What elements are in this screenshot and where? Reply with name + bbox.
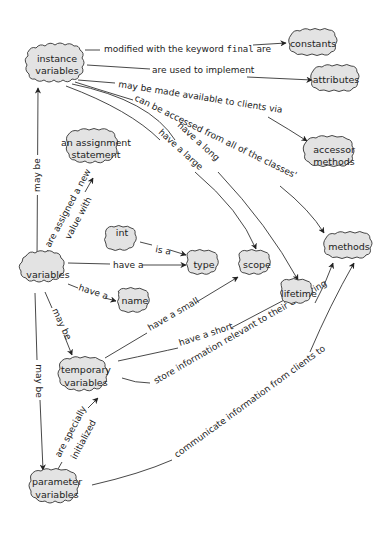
svg-text:variables: variables: [35, 65, 78, 76]
node-temporary-variables[interactable]: temporary variables: [58, 357, 111, 392]
edge-label-may-be-instance: may be: [32, 158, 42, 192]
node-assignment-statement[interactable]: an assignment statement: [61, 129, 131, 164]
node-parameter-variables[interactable]: parameter variables: [29, 469, 82, 504]
svg-text:type: type: [193, 259, 214, 270]
svg-text:variables: variables: [35, 489, 78, 500]
svg-text:statement: statement: [72, 149, 121, 160]
svg-text:temporary: temporary: [61, 364, 111, 375]
node-attributes[interactable]: attributes: [311, 65, 360, 92]
svg-text:int: int: [116, 227, 129, 238]
svg-text:an assignment: an assignment: [61, 137, 131, 148]
svg-text:name: name: [122, 295, 149, 306]
svg-text:constants: constants: [290, 38, 336, 49]
edge-label-have-a-type: have a: [113, 260, 143, 270]
node-instance-variables[interactable]: instance variables: [25, 43, 84, 82]
svg-text:accessor: accessor: [313, 144, 355, 155]
edge-label-may-be-parameter: may be: [34, 364, 44, 398]
edge-label-have-a-name: have a: [77, 282, 109, 301]
svg-text:scope: scope: [243, 259, 271, 270]
edge-label-is-a: is a: [155, 244, 172, 257]
node-lifetime[interactable]: lifetime: [281, 279, 318, 304]
node-methods[interactable]: methods: [324, 232, 372, 259]
edge-label-have-a-small: have a small: [146, 295, 201, 332]
node-type[interactable]: type: [187, 250, 219, 275]
svg-text:lifetime: lifetime: [281, 288, 317, 299]
edge-label-may-be-temporary: may be: [50, 307, 74, 342]
concept-map: modified with the keyword final are are …: [0, 0, 390, 538]
svg-text:methods: methods: [313, 156, 355, 167]
edge-label-final: modified with the keyword final are: [104, 44, 272, 54]
node-name[interactable]: name: [118, 288, 150, 313]
svg-text:attributes: attributes: [313, 74, 359, 85]
svg-text:variables: variables: [26, 269, 69, 280]
node-accessor-methods[interactable]: accessor methods: [303, 136, 355, 168]
node-constants[interactable]: constants: [289, 29, 337, 56]
svg-text:instance: instance: [37, 53, 77, 64]
node-scope[interactable]: scope: [239, 250, 272, 275]
svg-text:variables: variables: [64, 377, 107, 388]
edge-label-used-to-implement: are used to implement: [152, 65, 255, 75]
node-int[interactable]: int: [105, 226, 137, 251]
svg-text:methods: methods: [328, 241, 370, 252]
svg-text:parameter: parameter: [32, 476, 82, 487]
node-variables[interactable]: variables: [19, 251, 69, 282]
